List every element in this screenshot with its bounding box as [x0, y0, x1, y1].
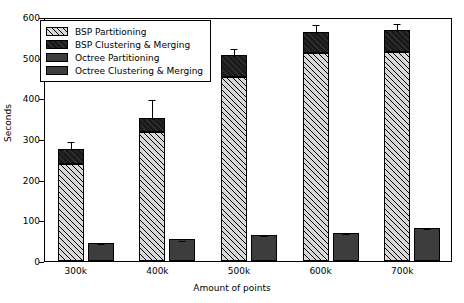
error-bar-cap-bsp: [231, 49, 238, 50]
legend-item: Octree Clustering & Merging: [46, 64, 203, 77]
error-bar-bsp: [397, 24, 398, 32]
y-tick-mark: [39, 262, 44, 263]
bar-octree: [251, 235, 277, 261]
y-tick-label: 0: [10, 257, 40, 267]
bar-bsp: [221, 55, 247, 261]
legend-label-bsp-partitioning: BSP Partitioning: [75, 27, 146, 37]
error-bar-bsp: [152, 100, 153, 120]
error-bar-cap-octree: [97, 244, 104, 245]
bar-segment-bsp-partitioning: [58, 164, 84, 261]
error-bar-cap-octree: [342, 234, 349, 235]
bar-octree: [88, 243, 114, 261]
legend-swatch-bsp-clustering: [46, 40, 68, 49]
error-bar-cap-bsp: [67, 142, 74, 143]
y-tick-label: 600: [10, 13, 40, 23]
bar-octree: [333, 233, 359, 261]
x-tick-label: 400k: [146, 266, 168, 276]
error-bar-cap-bsp: [312, 25, 319, 26]
bar-octree: [414, 228, 440, 261]
chart-figure: 0100200300400500600 Seconds 300k400k500k…: [0, 0, 464, 303]
y-tick-label: 200: [10, 176, 40, 186]
error-bar-cap-octree: [179, 241, 186, 242]
error-bar-cap-octree: [261, 236, 268, 237]
x-tick-label: 500k: [228, 266, 250, 276]
bar-segment-bsp-clustering: [58, 149, 84, 164]
bar-segment-bsp-partitioning: [139, 132, 165, 261]
legend-swatch-octree-clustering: [46, 66, 68, 75]
x-tick-label: 600k: [309, 266, 331, 276]
legend-item: Octree Partitioning: [46, 51, 203, 64]
legend-swatch-octree-partitioning: [46, 53, 68, 62]
y-axis-label: Seconds: [3, 93, 13, 153]
bar-bsp: [139, 118, 165, 261]
x-tick-label: 700k: [391, 266, 413, 276]
bar-segment-bsp-clustering: [303, 32, 329, 53]
chart-legend: BSP Partitioning BSP Clustering & Mergin…: [40, 20, 211, 82]
y-tick-label: 100: [10, 216, 40, 226]
bar-segment-bsp-clustering: [384, 30, 410, 52]
legend-item: BSP Clustering & Merging: [46, 38, 203, 51]
error-bar-bsp: [71, 142, 72, 151]
error-bar-cap-bsp: [149, 100, 156, 101]
bar-segment-bsp-clustering: [221, 55, 247, 77]
bar-segment-bsp-partitioning: [221, 77, 247, 261]
bar-bsp: [384, 30, 410, 261]
legend-label-octree-clustering: Octree Clustering & Merging: [75, 66, 203, 76]
bar-bsp: [303, 32, 329, 261]
bar-bsp: [58, 149, 84, 261]
bar-octree: [169, 239, 195, 261]
x-axis-label: Amount of points: [0, 283, 464, 293]
error-bar-cap-bsp: [394, 24, 401, 25]
y-tick-label: 400: [10, 94, 40, 104]
legend-item: BSP Partitioning: [46, 25, 203, 38]
error-bar-bsp: [234, 49, 235, 57]
legend-label-bsp-clustering: BSP Clustering & Merging: [75, 40, 190, 50]
y-tick-label: 300: [10, 135, 40, 145]
bar-segment-bsp-clustering: [139, 118, 165, 132]
legend-label-octree-partitioning: Octree Partitioning: [75, 53, 159, 63]
bar-segment-bsp-partitioning: [384, 52, 410, 261]
x-tick-label: 300k: [65, 266, 87, 276]
error-bar-bsp: [316, 25, 317, 34]
bar-segment-bsp-partitioning: [303, 53, 329, 261]
legend-swatch-bsp-partitioning: [46, 27, 68, 36]
y-tick-label: 500: [10, 54, 40, 64]
error-bar-cap-octree: [424, 229, 431, 230]
